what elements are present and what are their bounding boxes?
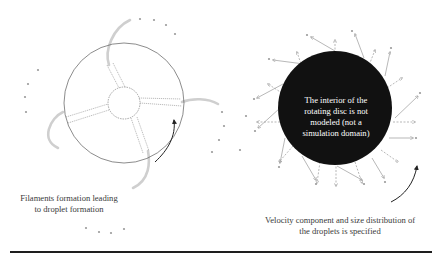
right-caption-line: the droplets is specified <box>240 226 440 237</box>
rotation-arrow-left-icon <box>155 120 174 162</box>
disc-label-line: The interior of the <box>286 95 386 106</box>
hub-circle <box>108 87 140 119</box>
left-caption-line: to droplet formation <box>4 204 134 215</box>
bottom-rule-divider <box>10 251 432 253</box>
disc-label-line: rotating disc is not <box>286 106 386 117</box>
right-caption: Velocity component and size distribution… <box>240 215 440 237</box>
disc-label-line: modeled (not a <box>286 117 386 128</box>
left-caption: Filaments formation leading to droplet f… <box>4 193 134 215</box>
disc-interior-label: The interior of the rotating disc is not… <box>286 95 386 139</box>
left-caption-line: Filaments formation leading <box>4 193 134 204</box>
right-caption-line: Velocity component and size distribution… <box>240 215 440 226</box>
rotation-arrow-right-icon <box>391 166 417 202</box>
disc-label-line: simulation domain) <box>286 128 386 139</box>
